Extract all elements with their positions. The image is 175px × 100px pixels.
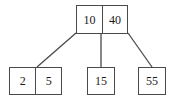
node-leaf-middle-key-0: 15 [88,68,114,94]
node-root-key-0: 10 [77,6,102,33]
tree-node-leaf-right: 55 [138,67,166,95]
node-leaf-right-key-0: 55 [139,68,165,94]
tree-node-leaf-left: 2 5 [9,67,62,95]
tree-node-root: 10 40 [76,5,128,34]
node-leaf-left-key-1: 5 [35,68,61,94]
node-root-key-1: 40 [102,6,127,33]
tree-node-leaf-middle: 15 [87,67,115,95]
edge-root-to-leaf-left [37,33,76,67]
node-leaf-left-key-0: 2 [10,68,35,94]
btree-diagram: 10 40 2 5 15 55 [0,0,175,100]
edge-root-to-leaf-right [128,33,152,67]
